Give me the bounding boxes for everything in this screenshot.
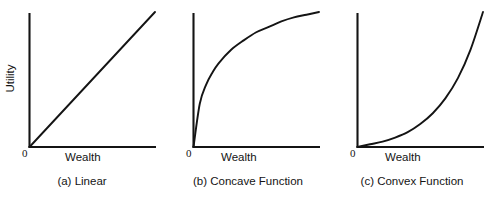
linear-utility-curve — [30, 12, 156, 147]
panel-linear: Utility 0 Wealth (a) Linear — [0, 0, 164, 201]
plot-area-linear — [0, 0, 164, 160]
x-axis-label-wealth-concave: Wealth — [221, 151, 257, 164]
concave-utility-curve — [194, 12, 320, 147]
plot-area-convex — [328, 0, 492, 160]
x-axis-label-wealth-linear: Wealth — [65, 151, 101, 164]
origin-label-linear: 0 — [22, 148, 28, 159]
caption-concave: (b) Concave Function — [166, 175, 330, 188]
utility-functions-figure: Utility 0 Wealth (a) Linear 0 Wealth (b)… — [0, 0, 492, 201]
caption-linear: (a) Linear — [0, 175, 164, 188]
origin-label-convex: 0 — [350, 148, 356, 159]
x-axis-label-wealth-convex: Wealth — [385, 151, 421, 164]
panel-concave: 0 Wealth (b) Concave Function — [164, 0, 328, 201]
plot-area-concave — [164, 0, 328, 160]
convex-utility-curve — [358, 12, 484, 147]
y-axis-label-utility: Utility — [4, 51, 17, 107]
caption-convex: (c) Convex Function — [330, 175, 492, 188]
panel-convex: 0 Wealth (c) Convex Function — [328, 0, 492, 201]
origin-label-concave: 0 — [186, 148, 192, 159]
